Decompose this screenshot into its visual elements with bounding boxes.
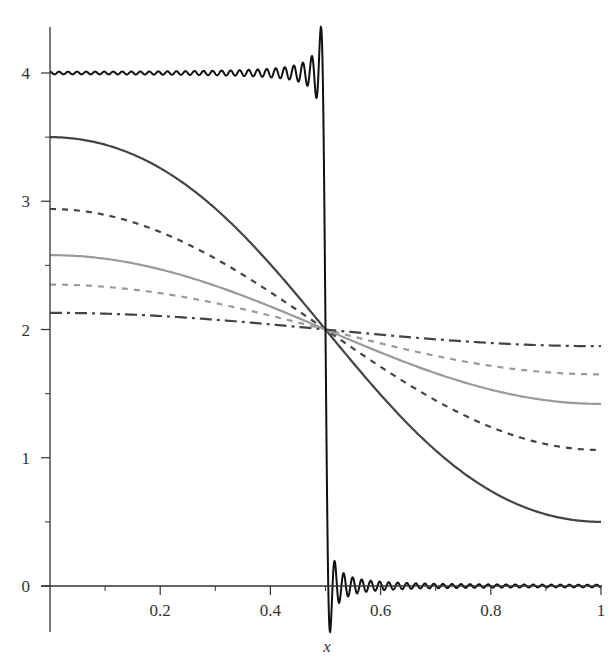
chart: 01234 0.20.40.60.81 x [0, 0, 614, 667]
y-tick-label: 0 [22, 577, 31, 596]
y-tick-label: 1 [22, 449, 31, 468]
series-initial-step-line [50, 27, 601, 632]
x-tick-label: 0.2 [150, 601, 171, 620]
plot-area [50, 27, 601, 632]
x-tick-label: 1 [597, 601, 606, 620]
x-tick-label: 0.8 [480, 601, 501, 620]
x-axis-label: x [322, 637, 331, 656]
y-tick-label: 2 [22, 321, 31, 340]
y-ticks: 01234 [22, 64, 51, 596]
x-tick-label: 0.4 [260, 601, 282, 620]
x-axis: 0.20.40.60.81 x [41, 586, 605, 656]
y-axis: 01234 [22, 27, 51, 632]
y-tick-label: 3 [22, 192, 31, 211]
y-tick-label: 4 [22, 64, 31, 83]
x-tick-label: 0.6 [370, 601, 391, 620]
step-series [50, 27, 601, 632]
